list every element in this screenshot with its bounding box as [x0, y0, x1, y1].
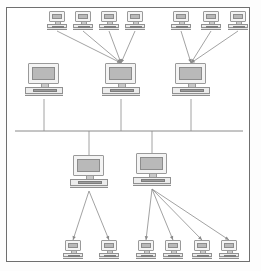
diagram-canvas	[0, 0, 261, 271]
diagram-frame	[6, 7, 250, 262]
